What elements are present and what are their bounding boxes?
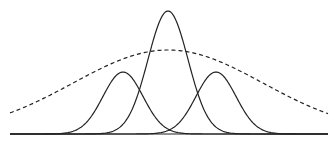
curve-left-narrow (10, 72, 328, 134)
gaussian-curves-chart (0, 0, 336, 143)
curve-right-narrow (10, 72, 328, 134)
curve-center-tall (10, 11, 328, 134)
curve-wide-dashed (10, 50, 328, 114)
